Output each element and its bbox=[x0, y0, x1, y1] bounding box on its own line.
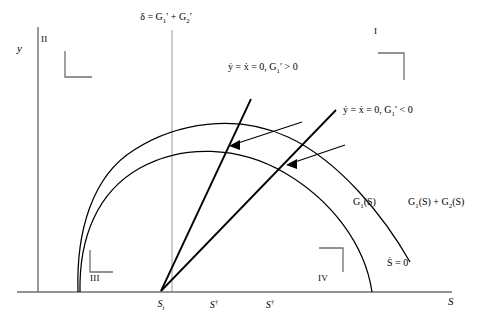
quadrant-4-label: IV bbox=[318, 274, 328, 283]
quadrant-3-label: III bbox=[90, 274, 100, 283]
quadrant-2-label: II bbox=[41, 35, 48, 44]
curve-g1-path bbox=[80, 151, 372, 292]
curve-sum-mid: (S) + G bbox=[419, 196, 449, 207]
delta-equals: = bbox=[145, 11, 156, 22]
s-dot-rest: = 0 bbox=[393, 257, 409, 268]
diagram-canvas bbox=[0, 0, 486, 327]
locus-pos-sign: > 0 bbox=[282, 61, 298, 72]
x-tick-s-dagger-2: S† bbox=[266, 299, 274, 310]
quadrant-3-corner-marker bbox=[90, 250, 113, 272]
delta-plus: + bbox=[168, 11, 179, 22]
locus-neg-sign: < 0 bbox=[397, 104, 413, 115]
delta-g2: G bbox=[179, 11, 186, 22]
y-axis-label: y bbox=[17, 43, 22, 54]
locus-pos-eq2: = 0, bbox=[249, 61, 270, 72]
locus-negative-line bbox=[161, 110, 336, 291]
quadrant-4-corner-marker bbox=[319, 248, 343, 272]
x-tick-s-dagger-1-sup: † bbox=[215, 298, 218, 305]
locus-positive-label: ẏ = ẋ = 0, G1′ > 0 bbox=[228, 62, 298, 75]
quadrant-1-corner-marker bbox=[378, 53, 404, 80]
x-tick-s-i-sub: i bbox=[163, 304, 165, 311]
delta-g1: G bbox=[156, 11, 163, 22]
curve-g1-plus-g2-label: G1(S) + G2(S) bbox=[408, 197, 464, 210]
quadrant-1-label: I bbox=[374, 27, 377, 36]
locus-pos-eq1: = bbox=[233, 61, 244, 72]
curve-g1-rest: (S) bbox=[364, 196, 376, 207]
quadrant-2-corner-marker bbox=[65, 51, 92, 77]
locus-negative-label: ẏ = ẋ = 0, G1′ < 0 bbox=[343, 105, 413, 118]
x-tick-s-i: Si bbox=[158, 299, 165, 312]
locus-negative-pointer-line bbox=[289, 145, 345, 164]
locus-positive-pointer-line bbox=[232, 122, 302, 145]
locus-positive-line bbox=[161, 99, 251, 291]
phase-diagram-figure: y S II I III IV δ = G1′ + G2′ ẏ = ẋ = 0,… bbox=[0, 0, 486, 327]
x-tick-s-dagger-2-sup: † bbox=[271, 298, 274, 305]
locus-neg-g: G bbox=[384, 104, 391, 115]
locus-pos-g: G bbox=[269, 61, 276, 72]
x-tick-s-dagger-1: S† bbox=[210, 299, 218, 310]
delta-guide-label: δ = G1′ + G2′ bbox=[140, 12, 192, 25]
delta-g2-prime: ′ bbox=[190, 11, 192, 22]
s-dot-zero-label: Ṡ = 0 bbox=[387, 258, 408, 268]
curve-g1-label: G1(S) bbox=[353, 197, 376, 210]
x-axis-label: S bbox=[448, 296, 454, 307]
locus-neg-eq1: = bbox=[348, 104, 359, 115]
locus-neg-eq2: = 0, bbox=[364, 104, 385, 115]
curve-sum-tail: (S) bbox=[452, 196, 464, 207]
